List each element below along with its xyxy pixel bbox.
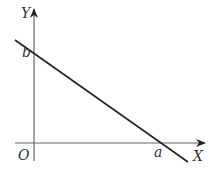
x-intercept-label: a: [154, 144, 162, 160]
coordinate-diagram: Y X O b a: [0, 0, 216, 170]
x-axis-label: X: [192, 148, 204, 164]
y-intercept-label: b: [22, 44, 31, 60]
y-axis-label: Y: [21, 5, 32, 21]
origin-label: O: [18, 147, 30, 163]
